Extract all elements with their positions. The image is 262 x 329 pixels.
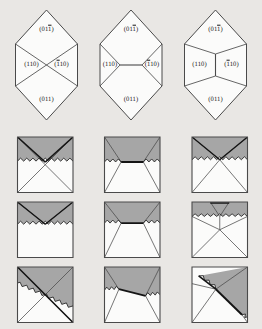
cell-r2c1 xyxy=(18,202,74,258)
cell-r3c3-content xyxy=(192,267,248,323)
cell-r2c3-content xyxy=(192,202,248,258)
cell-r2c1-content xyxy=(18,202,74,258)
cell-r2c3 xyxy=(192,202,248,258)
hexagon-3-label-top: (011) xyxy=(208,27,223,34)
hexagon-2-label-top: (011) xyxy=(124,27,139,34)
cell-r1c2-content xyxy=(105,137,161,193)
cell-r1c2 xyxy=(105,137,161,193)
cell-r3c2-content xyxy=(105,267,161,323)
hexagon-1-label-left: (110) xyxy=(24,62,39,69)
cell-r2c2-content xyxy=(105,202,161,258)
cell-r2c2 xyxy=(105,202,161,258)
cell-r1c1 xyxy=(18,137,74,193)
hexagon-3-label-right: (110) xyxy=(224,62,239,69)
square-cell-grid xyxy=(16,137,249,323)
figure-svg xyxy=(0,0,262,329)
cell-r3c1 xyxy=(16,267,76,323)
hexagon-1-label-right: (110) xyxy=(54,62,69,69)
cell-r3c1-content xyxy=(16,267,76,323)
crystal-domain-figure: (011)(011)(110)(110)(011)(011)(110)(110)… xyxy=(0,0,262,329)
cell-r1c1-gray-region xyxy=(18,137,74,161)
hexagon-2-label-bottom: (011) xyxy=(124,97,139,104)
cell-r3c2 xyxy=(105,267,161,323)
cell-r3c3 xyxy=(192,267,248,323)
cell-r1c3-content xyxy=(192,137,248,193)
cell-r1c1-content xyxy=(18,137,74,193)
hexagon-2-label-left: (110) xyxy=(103,62,118,69)
hexagon-2-label-right: (110) xyxy=(145,62,160,69)
hexagon-1-label-top: (011) xyxy=(39,27,54,34)
hexagon-3-label-left: (110) xyxy=(192,62,207,69)
cell-r1c3 xyxy=(192,137,248,193)
hexagon-1-label-bottom: (011) xyxy=(39,97,54,104)
hexagon-3-label-bottom: (011) xyxy=(208,97,223,104)
